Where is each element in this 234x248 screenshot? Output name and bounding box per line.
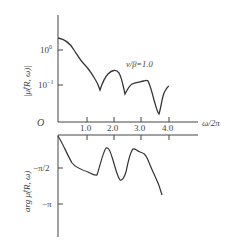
xtick-label-2: 2.0 — [107, 123, 119, 133]
origin-label: O — [37, 117, 44, 128]
upper-ytick-label-1e-1: 10−1 — [38, 79, 53, 90]
ytick-exp: −1 — [47, 79, 53, 85]
upper-ytick-label-1e0: 100 — [40, 44, 52, 55]
xtick-label-4: 4.0 — [162, 123, 174, 133]
parameter-annotation: v/β=1.0 — [126, 59, 153, 69]
lower-y-axis-label: arg μ̂(R, ω) — [22, 171, 32, 212]
chart-canvas: O 1.0 2.0 3.0 4.0 ω/2π 100 10−1 |μ̂(R, ω… — [0, 0, 234, 248]
lower-ytick-label-neg-pi-half: −π/2 — [33, 163, 50, 173]
xtick-label-3: 3.0 — [134, 123, 146, 133]
x-axis-label: ω/2π — [202, 118, 220, 128]
phase-curve — [58, 136, 162, 195]
ytick-exp: 0 — [49, 44, 52, 50]
xtick-label-1: 1.0 — [80, 123, 92, 133]
lower-ytick-label-neg-pi: −π — [42, 199, 52, 209]
magnitude-curve — [58, 38, 169, 114]
upper-y-axis-label: |μ̂(R, ω)| — [22, 65, 32, 97]
